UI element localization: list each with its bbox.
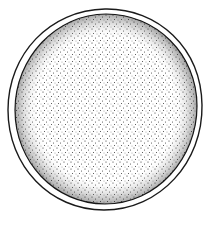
cell-illustration bbox=[0, 0, 209, 225]
